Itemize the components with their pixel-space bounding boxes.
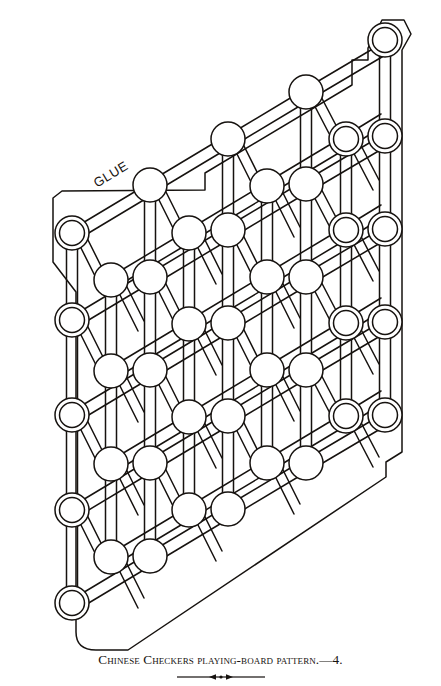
figure-caption: Chinese Checkers playing-board pattern.—… <box>0 650 441 668</box>
rule-ornament-icon <box>0 670 441 684</box>
page-canvas: GLUE Chinese Checkers playing-board patt… <box>0 0 441 686</box>
caption-text: Chinese Checkers playing-board pattern.—… <box>98 652 342 667</box>
chinese-checkers-figure: GLUE <box>0 0 441 686</box>
glue-annotation-label: GLUE <box>91 158 131 190</box>
ornament-container <box>0 670 441 684</box>
board-drawing <box>53 20 411 650</box>
hole-masks <box>55 23 402 620</box>
